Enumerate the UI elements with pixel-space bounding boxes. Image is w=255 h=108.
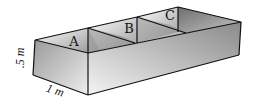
compartment-b-label: B	[124, 21, 134, 36]
compartment-a-label: A	[68, 34, 79, 49]
box-diagram: A B C .5 m 1 m	[0, 0, 255, 108]
compartment-c-label: C	[165, 8, 175, 23]
height-dimension-label: .5 m	[13, 47, 27, 68]
